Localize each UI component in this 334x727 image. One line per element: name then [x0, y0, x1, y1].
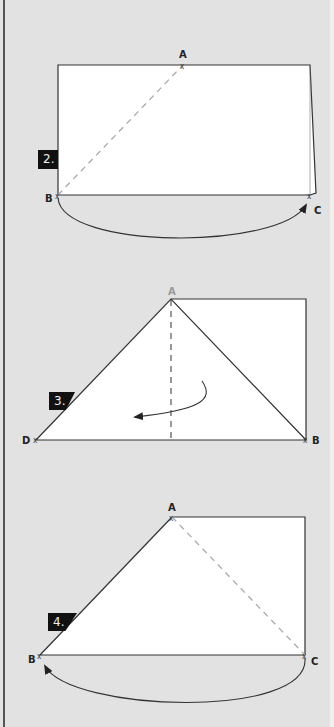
fold-arrow [58, 198, 306, 238]
fold-arrow [45, 658, 305, 703]
x-mark-icon: x [37, 652, 42, 661]
x-mark-icon: x [55, 192, 60, 201]
point-b-label: B [45, 193, 53, 204]
x-mark-icon: x [303, 436, 308, 445]
step-3-diagram: A D B x x [22, 286, 320, 446]
point-b-label: B [312, 435, 320, 446]
step-number-label: 2. [38, 150, 58, 169]
x-mark-icon: x [307, 192, 312, 201]
x-mark-icon: x [180, 62, 185, 71]
paper-rectangle [58, 65, 316, 195]
x-mark-icon: x [33, 436, 38, 445]
point-a-label: A [168, 502, 176, 513]
point-c-label: C [311, 656, 318, 667]
step-2-diagram: A B C x x x [45, 49, 321, 238]
point-a-label: A [179, 49, 187, 60]
point-d-label: D [22, 435, 30, 446]
point-a-label: A [168, 286, 176, 297]
point-c-label: C [314, 205, 321, 216]
x-mark-icon: x [169, 514, 174, 523]
step-4-diagram: A B C x x x [28, 502, 318, 703]
point-b-label: B [28, 654, 36, 665]
paper-shape [40, 517, 305, 655]
x-mark-icon: x [302, 652, 307, 661]
